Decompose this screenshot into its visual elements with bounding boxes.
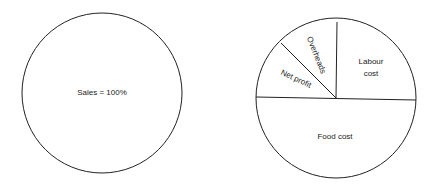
breakdown-pie: Labour cost Overheads Net profit Food co… [256,18,416,178]
labour-label-2: cost [364,69,379,78]
food-cost-label: Food cost [317,132,353,141]
sales-pie: Sales = 100% [22,13,182,173]
sales-label: Sales = 100% [77,88,127,97]
pie-charts: Sales = 100% Labour cost Overheads Net p… [0,0,436,191]
labour-label-1: Labour [359,57,384,66]
